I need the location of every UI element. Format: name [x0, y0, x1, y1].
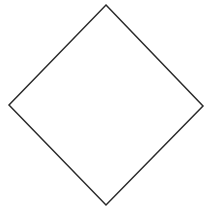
diagram-canvas — [0, 0, 218, 218]
diamond-diagram — [0, 0, 218, 218]
diamond-shape — [9, 5, 203, 205]
